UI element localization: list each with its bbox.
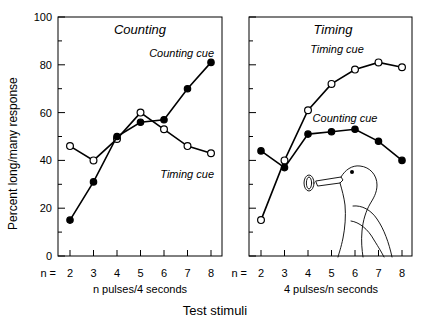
y-tick-label-60: 60 xyxy=(40,107,52,119)
panel-timing-annotation-counting-cue: Counting cue xyxy=(313,112,378,124)
data-point xyxy=(184,143,191,150)
panel-counting-series-counting-cue xyxy=(67,59,214,223)
panel-counting-x-axis-label: n pulses/4 seconds xyxy=(93,283,188,295)
y-tick-label-80: 80 xyxy=(40,59,52,71)
panel-counting-x-tick-labels: n = 2 3 4 5 6 7 8 n pulses/4 seconds xyxy=(40,267,214,295)
data-point xyxy=(399,157,405,163)
x-tick-label: 2 xyxy=(258,267,264,279)
panel-timing-annotation-timing-cue: Timing cue xyxy=(310,43,364,55)
data-point xyxy=(258,148,264,154)
data-point xyxy=(90,157,97,164)
panel-timing-series-counting-cue xyxy=(258,126,405,171)
data-point xyxy=(258,217,265,224)
data-point xyxy=(281,164,287,170)
panel-timing-x-tick-labels: n = 2 3 4 5 6 7 8 4 pulses/n seconds xyxy=(231,267,405,295)
x-tick-label: 4 xyxy=(114,267,120,279)
x-axis-title: Test stimuli xyxy=(183,303,247,318)
panel-timing-x-axis-label: 4 pulses/n seconds xyxy=(284,283,379,295)
data-point xyxy=(67,143,74,150)
data-point xyxy=(328,129,334,135)
panel-counting-annotation-counting-cue: Counting cue xyxy=(149,47,214,59)
y-tick-label-40: 40 xyxy=(40,154,52,166)
x-tick-label: 4 xyxy=(305,267,311,279)
x-tick-label: 6 xyxy=(352,267,358,279)
x-tick-label: 8 xyxy=(208,267,214,279)
y-axis-label: Percent long/many response xyxy=(6,77,20,230)
pigeon-eye xyxy=(350,170,354,174)
data-point xyxy=(67,217,73,223)
panel-counting-x-ticks xyxy=(70,250,211,256)
pigeon-head-back-outline xyxy=(341,166,377,257)
data-point xyxy=(375,59,382,66)
panel-timing-n-prefix: n = xyxy=(231,267,247,279)
data-point xyxy=(352,126,358,132)
y-tick-label-100: 100 xyxy=(34,11,52,23)
chart-svg: Percent long/many response 0 20 40 60 80… xyxy=(0,0,430,326)
data-point xyxy=(399,64,406,71)
data-point xyxy=(208,150,215,157)
pigeon-pecking-key-illustration xyxy=(304,166,392,257)
x-tick-label: 7 xyxy=(184,267,190,279)
x-tick-label: 8 xyxy=(399,267,405,279)
data-point xyxy=(161,126,168,133)
data-point xyxy=(281,157,288,164)
data-point xyxy=(328,81,335,88)
x-tick-label: 2 xyxy=(67,267,73,279)
pigeon-beak xyxy=(316,177,343,186)
panel-timing: Timing xyxy=(249,17,412,257)
panel-counting-series-timing-cue xyxy=(67,109,215,164)
data-point xyxy=(137,109,144,116)
response-key-inner-icon xyxy=(306,177,311,189)
data-point xyxy=(352,66,359,73)
pigeon-breast-outline xyxy=(338,183,345,257)
panel-timing-series-timing-cue xyxy=(258,59,406,224)
panel-counting-n-prefix: n = xyxy=(40,267,56,279)
y-axis-label-text: Percent long/many response xyxy=(6,77,20,230)
pigeon-wing-lower xyxy=(351,221,384,257)
figure-container: Percent long/many response 0 20 40 60 80… xyxy=(0,0,430,326)
x-tick-label: 5 xyxy=(328,267,334,279)
data-point xyxy=(90,179,96,185)
y-tick-label-20: 20 xyxy=(40,202,52,214)
y-tick-labels: 0 20 40 60 80 100 xyxy=(34,11,52,262)
panel-counting-annotation-timing-cue: Timing cue xyxy=(160,168,214,180)
y-tick-label-0: 0 xyxy=(46,250,52,262)
data-point xyxy=(208,59,214,65)
x-tick-label: 3 xyxy=(281,267,287,279)
panel-counting-title: Counting xyxy=(114,22,167,37)
data-point xyxy=(137,119,143,125)
data-point xyxy=(375,138,381,144)
pigeon-wing-upper xyxy=(353,206,392,257)
panel-timing-title: Timing xyxy=(314,22,354,37)
x-tick-label: 5 xyxy=(137,267,143,279)
x-tick-label: 7 xyxy=(375,267,381,279)
data-point xyxy=(305,107,312,114)
panel-counting: Counting xyxy=(58,17,222,256)
data-point xyxy=(161,117,167,123)
data-point xyxy=(305,131,311,137)
x-tick-label: 3 xyxy=(90,267,96,279)
data-point xyxy=(184,86,190,92)
panel-counting-y-minor-ticks xyxy=(58,41,62,232)
panel-timing-y-minor-ticks xyxy=(249,41,253,232)
x-tick-label: 6 xyxy=(161,267,167,279)
data-point xyxy=(114,133,120,139)
